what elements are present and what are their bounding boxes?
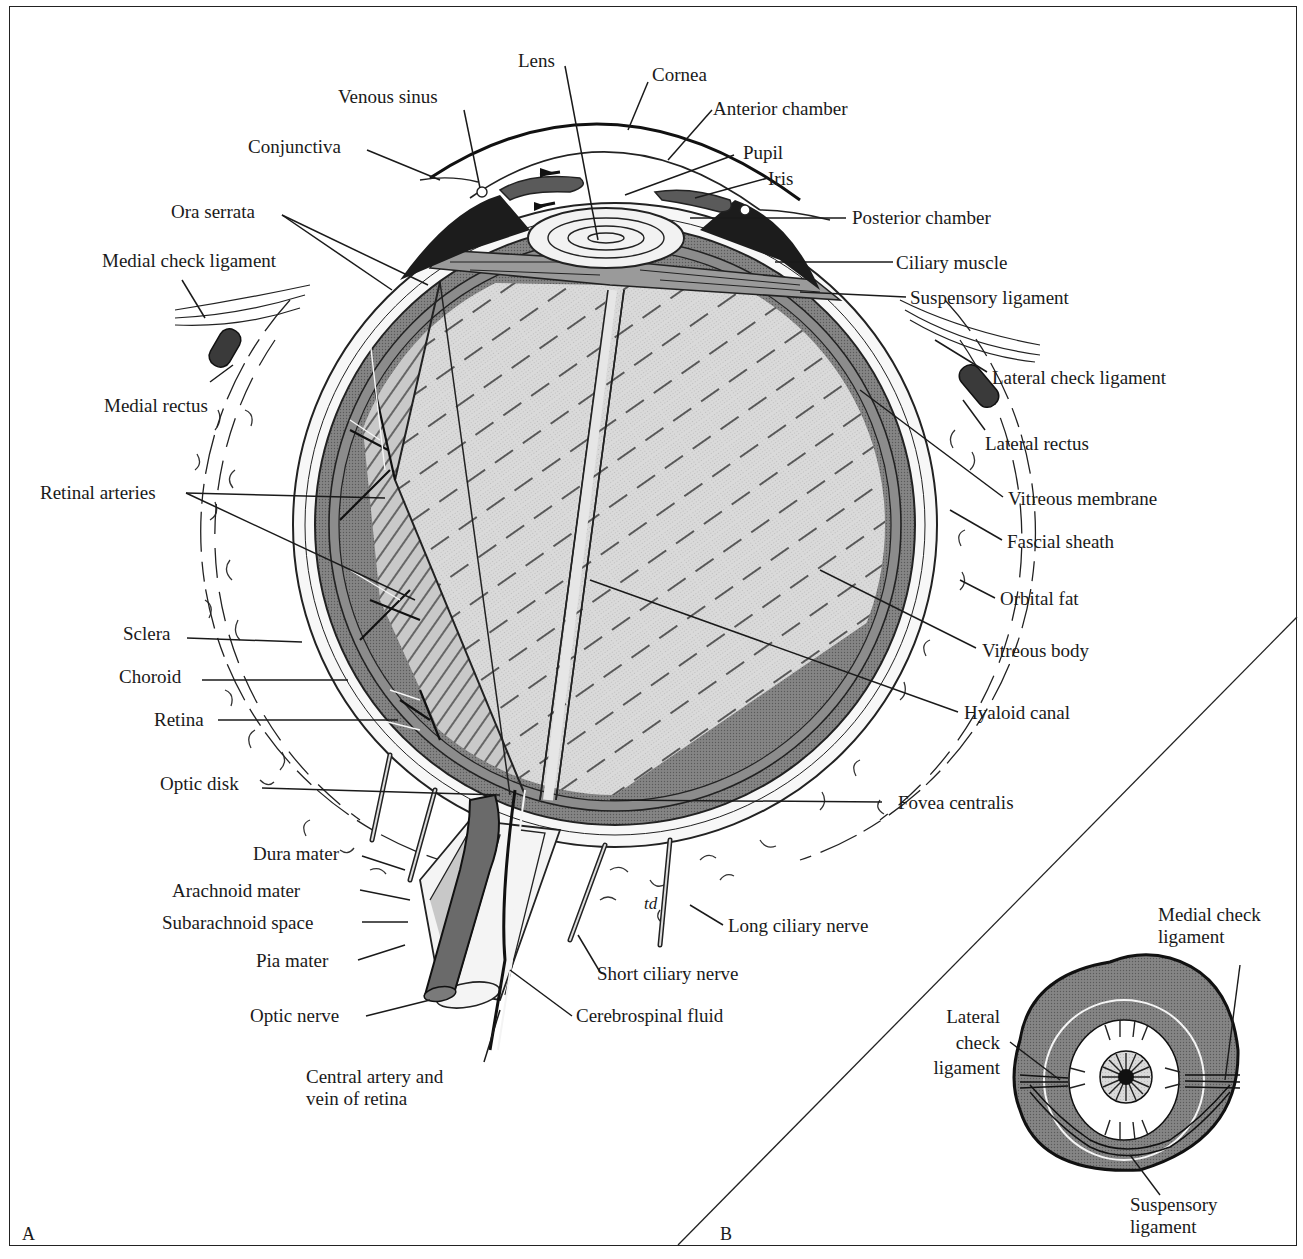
label-arachnoid-mater: Arachnoid mater	[172, 880, 300, 901]
label-lens: Lens	[518, 50, 555, 71]
label-retina: Retina	[154, 709, 204, 730]
label-sclera: Sclera	[123, 623, 170, 644]
label-anterior-chamber: Anterior chamber	[713, 98, 848, 119]
panel-letter-b: B	[720, 1224, 732, 1245]
label-cerebrospinal-fluid: Cerebrospinal fluid	[576, 1005, 723, 1026]
label-cornea: Cornea	[652, 64, 707, 85]
label-lateral-check-ligament: Lateral check ligament	[992, 367, 1166, 388]
label-b-lateral-line2: check	[930, 1032, 1000, 1053]
label-ora-serrata: Ora serrata	[171, 201, 255, 222]
venous-sinus-right	[740, 205, 750, 215]
panel-b-eye-front-view	[1010, 955, 1240, 1195]
label-medial-check-ligament: Medial check ligament	[102, 250, 276, 271]
label-orbital-fat: Orbital fat	[1000, 588, 1079, 609]
label-medial-rectus: Medial rectus	[104, 395, 208, 416]
label-posterior-chamber: Posterior chamber	[852, 207, 991, 228]
label-b-medial-check-line2: ligament	[1158, 926, 1224, 947]
label-optic-disk: Optic disk	[160, 773, 239, 794]
label-short-ciliary-nerve: Short ciliary nerve	[597, 963, 738, 984]
label-retinal-arteries: Retinal arteries	[40, 482, 156, 503]
label-vitreous-body: Vitreous body	[982, 640, 1089, 661]
label-conjunctiva: Conjunctiva	[248, 136, 341, 157]
label-b-suspensory-line2: ligament	[1130, 1216, 1196, 1237]
label-pupil: Pupil	[743, 142, 783, 163]
artist-signature: td	[644, 893, 657, 914]
conjunctiva	[420, 178, 478, 182]
eye-anatomy-illustration	[0, 0, 1303, 1259]
label-fascial-sheath: Fascial sheath	[1007, 531, 1114, 552]
panel-letter-a: A	[22, 1224, 35, 1245]
label-ciliary-muscle: Ciliary muscle	[896, 252, 1007, 273]
label-hyaloid-canal: Hyaloid canal	[964, 702, 1070, 723]
label-b-lateral-line1: Lateral	[930, 1006, 1000, 1027]
label-vitreous-membrane: Vitreous membrane	[1008, 488, 1157, 509]
label-long-ciliary-nerve: Long ciliary nerve	[728, 915, 868, 936]
iris-left	[500, 177, 583, 201]
venous-sinus-left	[477, 187, 487, 197]
label-fovea-centralis: Fovea centralis	[898, 792, 1014, 813]
lens	[528, 208, 684, 268]
label-b-medial-check-line1: Medial check	[1158, 904, 1261, 925]
pupil-front	[1118, 1069, 1134, 1085]
label-lateral-rectus: Lateral rectus	[985, 433, 1089, 454]
label-b-lateral-line3: ligament	[900, 1057, 1000, 1078]
label-pia-mater: Pia mater	[256, 950, 328, 971]
label-venous-sinus: Venous sinus	[338, 86, 438, 107]
label-dura-mater: Dura mater	[253, 843, 339, 864]
label-choroid: Choroid	[119, 666, 181, 687]
label-subarachnoid-space: Subarachnoid space	[162, 912, 313, 933]
medial-check-ligament	[175, 285, 310, 325]
label-central-artery-line2: vein of retina	[306, 1088, 407, 1109]
label-optic-nerve: Optic nerve	[250, 1005, 339, 1026]
label-iris: Iris	[768, 168, 793, 189]
label-suspensory-ligament: Suspensory ligament	[910, 287, 1069, 308]
medial-rectus	[205, 325, 244, 371]
label-b-suspensory-line1: Suspensory	[1130, 1194, 1218, 1215]
label-central-artery-line1: Central artery and	[306, 1066, 443, 1087]
